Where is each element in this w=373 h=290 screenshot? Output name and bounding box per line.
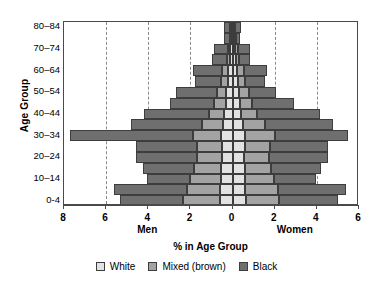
bar-segment <box>131 119 202 130</box>
bar-segment <box>246 195 280 205</box>
x-axis-title: % in Age Group <box>63 241 358 252</box>
legend-label: White <box>110 261 136 272</box>
age-group-row <box>64 109 357 120</box>
bar-segment <box>187 184 221 195</box>
bar-segment <box>271 163 321 174</box>
x-axis-tick-mark <box>63 205 64 209</box>
bar-segment <box>238 44 250 55</box>
bar-segment <box>233 163 245 174</box>
y-axis-tick-label: 50–54 <box>20 86 60 96</box>
bar-segment <box>244 152 269 163</box>
age-group-row <box>64 141 357 152</box>
bar-segment <box>212 54 227 65</box>
x-axis-tick-mark <box>316 205 317 209</box>
x-axis-tick-label: 6 <box>346 212 370 223</box>
bar-segment <box>239 87 249 98</box>
bar-segment <box>120 195 183 205</box>
bar-segment <box>221 163 233 174</box>
side-labels: Men Women <box>63 224 358 238</box>
bar-segment <box>233 87 240 98</box>
age-group-row <box>64 184 357 195</box>
bar-segment <box>220 195 233 205</box>
bar-segment <box>274 174 316 185</box>
bar-segment <box>220 184 232 195</box>
bar-segment <box>223 119 232 130</box>
age-group-row <box>64 65 357 76</box>
bar-segment <box>217 87 226 98</box>
bar-segment <box>257 109 320 120</box>
bar-segment <box>228 44 231 55</box>
x-axis-tick-label: 2 <box>262 212 286 223</box>
legend-swatch-icon <box>96 262 105 271</box>
bar-segment <box>270 141 328 152</box>
bar-segment <box>136 141 197 152</box>
bar-segment <box>197 152 222 163</box>
x-axis-tick-mark <box>147 205 148 209</box>
bar-segment <box>233 98 240 109</box>
bar-segment <box>233 130 246 141</box>
bar-segment <box>222 65 228 76</box>
x-axis-tick-mark <box>274 205 275 209</box>
bar-segment <box>136 152 197 163</box>
age-group-row <box>64 174 357 185</box>
bar-segment <box>224 109 232 120</box>
bar-segment <box>221 130 233 141</box>
bar-segment <box>235 22 241 33</box>
bar-segment <box>245 184 278 195</box>
age-group-row <box>64 152 357 163</box>
y-axis-tick-label: 30–34 <box>20 130 60 140</box>
legend-label: Black <box>253 261 277 272</box>
bar-segment <box>245 130 275 141</box>
y-axis-tick-label: 80–84 <box>20 21 60 31</box>
age-group-row <box>64 76 357 87</box>
bar-segment <box>244 65 267 76</box>
bar-segment <box>114 184 187 195</box>
y-axis-tick-label: 0-4 <box>20 195 60 205</box>
age-group-row <box>64 54 357 65</box>
bar-segment <box>240 98 252 109</box>
age-group-row <box>64 119 357 130</box>
x-axis-tick-label: 4 <box>304 212 328 223</box>
x-axis-tick-mark <box>105 205 106 209</box>
age-group-row <box>64 22 357 33</box>
age-group-row <box>64 130 357 141</box>
age-group-row <box>64 98 357 109</box>
bar-segment <box>252 98 294 109</box>
bar-segment <box>190 174 221 185</box>
bar-segment <box>226 98 233 109</box>
age-group-row <box>64 33 357 44</box>
bar-segment <box>222 141 233 152</box>
bar-segment <box>224 22 231 33</box>
age-group-row <box>64 44 357 55</box>
age-group-row <box>64 195 357 205</box>
x-axis-tick-mark <box>358 205 359 209</box>
women-label: Women <box>255 224 335 235</box>
bar-segment <box>221 76 228 87</box>
bar-segment <box>238 76 245 87</box>
bar-segment <box>70 130 192 141</box>
bar-segment <box>233 152 245 163</box>
bar-segment <box>233 195 246 205</box>
legend-swatch-icon <box>148 262 157 271</box>
legend-swatch-icon <box>239 262 248 271</box>
legend-item: Black <box>239 261 277 272</box>
x-axis-tick-label: 2 <box>177 212 201 223</box>
bar-segment <box>214 98 226 109</box>
legend-item: Mixed (brown) <box>148 261 225 272</box>
bar-segment <box>170 98 214 109</box>
bar-segment <box>222 152 233 163</box>
age-group-row <box>64 163 357 174</box>
bar-segment <box>236 33 240 44</box>
population-pyramid-chart: Age Group 0-410–1420–2430–3440–4450–5460… <box>0 0 373 290</box>
x-axis-line: 86420246 <box>63 205 358 206</box>
bar-segment <box>269 152 328 163</box>
x-axis-tick-label: 6 <box>93 212 117 223</box>
x-axis-tick-mark <box>232 205 233 209</box>
zero-axis-line-top <box>233 22 234 204</box>
bar-segment <box>245 76 265 87</box>
bar-segment <box>233 109 242 120</box>
bar-segment <box>144 109 209 120</box>
bar-segment <box>214 44 228 55</box>
bar-segment <box>245 141 270 152</box>
bar-segment <box>278 184 346 195</box>
